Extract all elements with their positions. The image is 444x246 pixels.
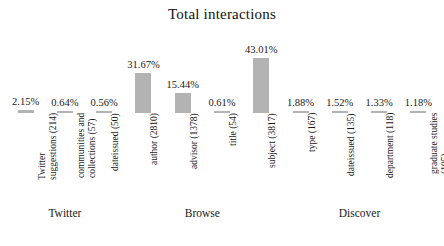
bar[interactable] <box>253 58 269 113</box>
category-label-slot: department (118) <box>359 113 398 205</box>
category-label: title (54) <box>227 113 238 146</box>
bar-value-label: 1.52% <box>326 97 353 108</box>
bar-slot: 1.88% <box>281 0 320 113</box>
category-label: department (118) <box>385 113 396 178</box>
bar-value-label: 1.33% <box>366 97 393 108</box>
category-label-slot: subject (3817) <box>242 113 281 205</box>
bar-slot: 0.64% <box>45 0 84 113</box>
category-label-slot: dateissued (135) <box>320 113 359 205</box>
category-label-slot: graduate studies(105) <box>399 113 438 205</box>
group-label: Browse <box>185 207 220 219</box>
bar-slot: 0.61% <box>202 0 241 113</box>
category-label-line: subject (3817) <box>267 113 278 168</box>
bar[interactable] <box>175 93 191 113</box>
bar-value-label: 31.67% <box>127 59 159 70</box>
category-label-slot: communities andcollections (57) <box>45 113 84 205</box>
category-label-line: advisor (1378) <box>188 113 199 169</box>
category-label-slot: Twittersuggestions (214) <box>6 113 45 205</box>
bar-slot: 31.67% <box>124 0 163 113</box>
bar[interactable] <box>135 73 151 113</box>
bar-value-label: 0.61% <box>208 97 235 108</box>
category-label-slot: advisor (1378) <box>163 113 202 205</box>
category-label-line: type (167) <box>306 113 317 152</box>
bar-value-label: 1.18% <box>405 97 432 108</box>
category-label: graduate studies(105) <box>429 113 444 174</box>
bar-slot: 2.15% <box>6 0 45 113</box>
bar-value-label: 1.88% <box>287 97 314 108</box>
category-label-line: graduate studies <box>429 113 440 174</box>
category-label: dateissued (50) <box>110 113 121 171</box>
bar-slot: 0.56% <box>85 0 124 113</box>
bar-value-label: 43.01% <box>245 44 277 55</box>
bar-slot: 15.44% <box>163 0 202 113</box>
bar-slot: 1.52% <box>320 0 359 113</box>
chart-container: Total interactions 2.15%0.64%0.56%31.67%… <box>0 0 444 246</box>
category-label-line: title (54) <box>227 113 238 146</box>
category-label: author (2810) <box>149 113 160 165</box>
bar-value-label: 0.56% <box>91 97 118 108</box>
group-axis: TwitterBrowseDiscover <box>0 207 444 231</box>
category-label-slot: type (167) <box>281 113 320 205</box>
category-label: type (167) <box>306 113 317 152</box>
bar-slot: 1.18% <box>399 0 438 113</box>
category-label-slot: title (54) <box>202 113 241 205</box>
category-label-line: dateissued (135) <box>345 113 356 176</box>
category-label-line: dateissued (50) <box>110 113 121 171</box>
category-label-line: department (118) <box>385 113 396 178</box>
category-label: subject (3817) <box>267 113 278 168</box>
plot-area: 2.15%0.64%0.56%31.67%15.44%0.61%43.01%1.… <box>0 0 444 113</box>
category-axis: Twittersuggestions (214)communities andc… <box>0 113 444 205</box>
category-label: dateissued (135) <box>345 113 356 176</box>
bar-value-label: 15.44% <box>167 79 199 90</box>
category-label-line: (105) <box>439 113 444 174</box>
category-label-slot: author (2810) <box>124 113 163 205</box>
category-label-line: author (2810) <box>149 113 160 165</box>
category-label-slot: dateissued (50) <box>85 113 124 205</box>
bar-slot: 43.01% <box>242 0 281 113</box>
group-label: Discover <box>339 207 381 219</box>
category-label: advisor (1378) <box>188 113 199 169</box>
bar-value-label: 2.15% <box>12 96 39 107</box>
bar-slot: 1.33% <box>359 0 398 113</box>
bar-value-label: 0.64% <box>51 97 78 108</box>
group-label: Twitter <box>48 207 81 219</box>
